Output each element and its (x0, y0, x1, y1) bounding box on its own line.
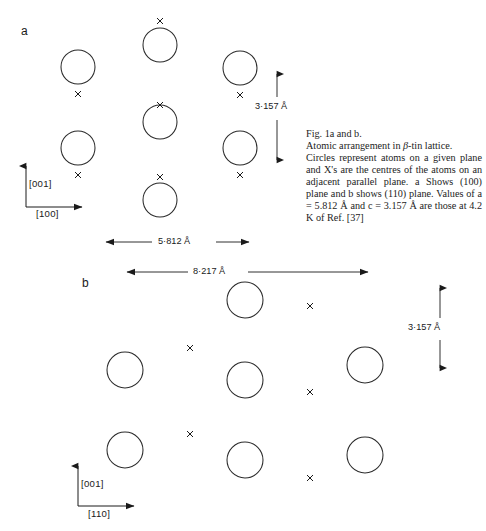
cross-mark (75, 91, 81, 97)
atom-circle (227, 282, 263, 318)
cross-mark (75, 172, 81, 178)
atom-circle (223, 131, 257, 165)
axis-label-a-vertical: [001] (29, 178, 52, 189)
dimension-label-b-horizontal: 8·217 Å (190, 266, 228, 276)
panel-b-cross-marks (187, 303, 313, 481)
figure-container: a b 3·157 Å 5·812 Å 8·217 Å 3·157 Å [001… (0, 0, 486, 531)
cross-mark (307, 475, 313, 481)
atom-circle (107, 432, 143, 468)
cross-mark (187, 431, 193, 437)
atom-circle (347, 347, 383, 383)
cross-mark (307, 303, 313, 309)
axis-label-b-horizontal: [110] (88, 508, 110, 519)
caption-line-2-post: -tin lattice. (408, 140, 452, 151)
cross-mark (187, 345, 193, 351)
caption-line-2: Atomic arrangement in β-tin lattice. (306, 140, 482, 152)
atom-circle (227, 442, 263, 478)
axis-label-b-vertical: [001] (81, 478, 104, 489)
cross-mark (307, 389, 313, 395)
panel-a-cross-marks (75, 18, 243, 180)
cross-mark (157, 18, 163, 24)
atom-circle (347, 437, 383, 473)
atom-circle (227, 362, 263, 398)
dimension-label-a-vertical: 3·157 Å (255, 101, 287, 111)
caption-line-2-pre: Atomic arrangement in (306, 140, 403, 151)
atom-circle (143, 105, 177, 139)
atom-circle (143, 28, 177, 62)
dimension-label-b-vertical: 3·157 Å (408, 322, 440, 332)
caption-body: Circles represent atoms on a given plane… (306, 152, 482, 224)
panel-label-a: a (21, 24, 28, 38)
atom-circle (107, 352, 143, 388)
panel-b-atom-circles (107, 282, 383, 478)
axis-label-a-horizontal: [100] (36, 208, 59, 219)
atom-circle (61, 131, 95, 165)
cross-mark (157, 174, 163, 180)
atom-circle (61, 50, 95, 84)
caption-line-1: Fig. 1a and b. (306, 128, 482, 140)
figure-caption: Fig. 1a and b. Atomic arrangement in β-t… (306, 128, 482, 224)
dimension-label-a-horizontal: 5·812 Å (155, 236, 193, 246)
cross-mark (237, 172, 243, 178)
figure-drawing (0, 0, 486, 531)
atom-circle (143, 183, 177, 217)
cross-mark (237, 92, 243, 98)
panel-label-b: b (82, 276, 89, 290)
atom-circle (223, 51, 257, 85)
panel-a-atom-circles (61, 28, 257, 217)
